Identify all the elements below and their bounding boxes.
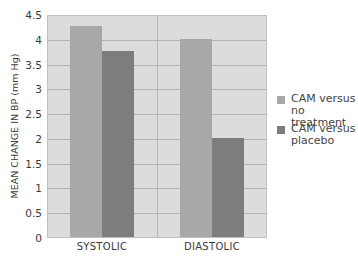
legend-label: CAM versus placebo <box>291 123 358 147</box>
y-tick-label: 4 <box>35 34 42 46</box>
bar-systolic-series-1 <box>70 26 102 237</box>
y-tick-label: 2.5 <box>25 108 42 120</box>
y-tick-label: 1 <box>35 182 42 194</box>
legend-swatch-icon <box>277 126 285 134</box>
bar-systolic-series-2 <box>102 51 134 237</box>
legend-swatch-icon <box>277 96 285 104</box>
y-tick-label: 3 <box>35 83 42 95</box>
x-category-label: SYSTOLIC <box>77 241 128 252</box>
legend-item: CAM versus placebo <box>277 123 358 147</box>
bar-diastolic-series-1 <box>180 39 212 237</box>
y-tick-label: 2 <box>35 133 42 145</box>
y-tick-label: 0 <box>35 232 42 244</box>
y-tick-label: 0.5 <box>25 207 42 219</box>
y-tick-label: 1.5 <box>25 158 42 170</box>
x-category-label: DIASTOLIC <box>184 241 240 252</box>
y-tick-label: 4.5 <box>25 9 42 21</box>
plot-area <box>47 15 267 238</box>
bar-diastolic-series-2 <box>212 138 244 237</box>
category-divider <box>157 16 158 237</box>
y-axis-label: MEAN CHANGE IN BP (mm Hg) <box>9 54 20 199</box>
y-tick-label: 3.5 <box>25 59 42 71</box>
